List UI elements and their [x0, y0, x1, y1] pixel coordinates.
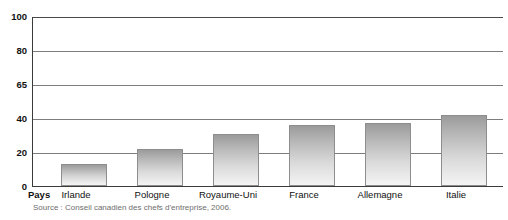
- bar-group: [32, 17, 503, 186]
- x-tick-label-allemagne: Allemagne: [342, 188, 418, 201]
- x-tick-label-irlande: Irlande: [38, 188, 114, 201]
- y-tick-label-65: 65: [0, 80, 27, 90]
- bar-italie: [441, 115, 487, 186]
- y-tick-label-40: 40: [0, 114, 27, 124]
- x-tick-label-france: France: [266, 188, 342, 201]
- y-tick-label-80: 80: [0, 46, 27, 56]
- y-axis-line: [32, 17, 33, 187]
- bar-chart: 100 80 65 40 20 0 Pays Irlande Pologne R…: [0, 0, 508, 220]
- bar-irlande: [61, 164, 107, 186]
- bar-france: [289, 125, 335, 186]
- bar-pologne: [137, 149, 183, 186]
- bar-allemagne: [365, 123, 411, 186]
- x-tick-label-italie: Italie: [418, 188, 494, 201]
- source-note: Source : Conseil canadien des chefs d'en…: [33, 203, 231, 213]
- x-tick-label-pologne: Pologne: [114, 188, 190, 201]
- x-axis-line: [32, 186, 503, 187]
- x-tick-label-royaume-uni: Royaume-Uni: [190, 188, 266, 201]
- bar-royaume-uni: [213, 134, 259, 186]
- y-tick-label-100: 100: [0, 12, 27, 22]
- y-tick-label-20: 20: [0, 148, 27, 158]
- x-axis-labels: Pays Irlande Pologne Royaume-Uni France …: [0, 188, 508, 204]
